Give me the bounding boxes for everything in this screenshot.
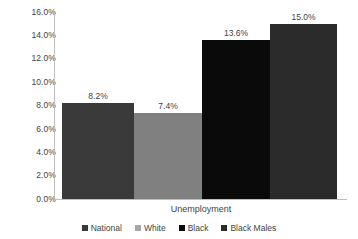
legend-swatch-icon [82, 225, 88, 231]
legend-label: White [144, 223, 166, 233]
bar-value-label: 13.6% [202, 29, 270, 38]
bar-value-label: 15.0% [270, 13, 337, 22]
x-axis-title: Unemployment [55, 204, 347, 215]
y-tick-label: 8.0% [10, 101, 56, 110]
bar-value-label: 8.2% [62, 92, 134, 101]
y-tick-label: 0.0% [10, 195, 56, 204]
y-tick-label: 2.0% [10, 171, 56, 180]
chart-legend: National White Black Black Males [0, 223, 358, 233]
legend-label: Black Males [230, 223, 276, 233]
legend-label: National [91, 223, 122, 233]
y-tick-label: 6.0% [10, 125, 56, 134]
bar-black[interactable] [202, 40, 270, 199]
legend-item-black-males[interactable]: Black Males [221, 223, 276, 233]
x-axis-line [54, 199, 347, 200]
y-tick-label: 12.0% [10, 54, 56, 63]
bar-chart: 16.0% 14.0% 12.0% 10.0% 8.0% 6.0% 4.0% 2… [0, 0, 358, 239]
plot-area: 8.2% 7.4% 13.6% 15.0% [55, 12, 347, 199]
y-tick-label: 14.0% [10, 31, 56, 40]
y-tick-label: 16.0% [10, 8, 56, 17]
bar-national[interactable] [62, 103, 134, 199]
legend-swatch-icon [179, 225, 185, 231]
y-tick-label: 4.0% [10, 148, 56, 157]
legend-item-black[interactable]: Black [179, 223, 209, 233]
legend-label: Black [188, 223, 209, 233]
legend-item-national[interactable]: National [82, 223, 122, 233]
legend-item-white[interactable]: White [135, 223, 166, 233]
y-tick-label: 10.0% [10, 78, 56, 87]
bar-black-males[interactable] [270, 24, 337, 199]
legend-swatch-icon [135, 225, 141, 231]
bar-value-label: 7.4% [134, 102, 202, 111]
legend-swatch-icon [221, 225, 227, 231]
bar-white[interactable] [134, 113, 202, 199]
